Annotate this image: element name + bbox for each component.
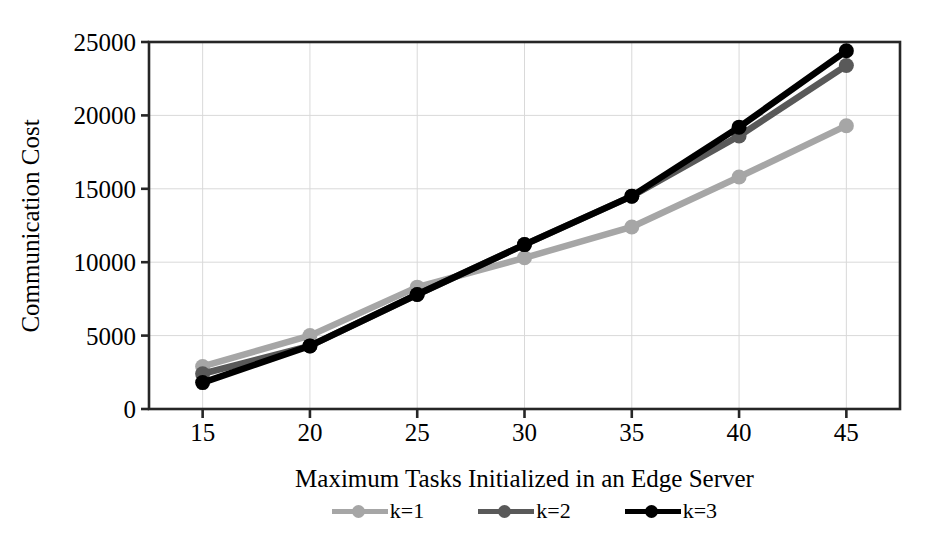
legend-swatch-k=2	[478, 502, 534, 520]
data-point-k=1-35	[624, 219, 639, 234]
x-tick-label-30: 30	[485, 420, 565, 445]
data-point-k=3-25	[410, 287, 425, 302]
data-point-k=1-30	[517, 250, 532, 265]
legend-marker-icon	[645, 505, 658, 518]
legend-label: k=2	[536, 498, 570, 524]
x-tick-label-20: 20	[270, 420, 350, 445]
plot-area	[0, 0, 934, 540]
data-point-k=1-40	[732, 170, 747, 185]
data-point-k=3-40	[732, 120, 747, 135]
x-tick-label-35: 35	[592, 420, 672, 445]
data-point-k=2-45	[839, 58, 854, 73]
data-point-k=3-45	[839, 43, 854, 58]
data-point-k=3-30	[517, 237, 532, 252]
legend-marker-icon	[498, 505, 511, 518]
legend-label: k=3	[683, 498, 717, 524]
x-axis-title: Maximum Tasks Initialized in an Edge Ser…	[149, 465, 900, 493]
legend-entry-k=2: k=2	[478, 498, 570, 524]
x-tick-label-40: 40	[699, 420, 779, 445]
gridlines	[149, 42, 900, 409]
legend-swatch-k=3	[625, 502, 681, 520]
x-tick-label-45: 45	[806, 420, 886, 445]
x-tick-label-25: 25	[377, 420, 457, 445]
data-point-k=3-20	[302, 338, 317, 353]
legend-marker-icon	[352, 505, 365, 518]
data-point-k=1-45	[839, 118, 854, 133]
data-point-k=3-15	[195, 375, 210, 390]
chart-figure: Communication Cost 0 5000 10000 15000 20…	[0, 0, 934, 540]
legend-swatch-k=1	[332, 502, 388, 520]
chart-legend: k=1k=2k=3	[149, 498, 900, 524]
x-tick-label-15: 15	[163, 420, 243, 445]
legend-label: k=1	[390, 498, 424, 524]
data-point-k=3-35	[624, 189, 639, 204]
legend-entry-k=3: k=3	[625, 498, 717, 524]
legend-entry-k=1: k=1	[332, 498, 424, 524]
